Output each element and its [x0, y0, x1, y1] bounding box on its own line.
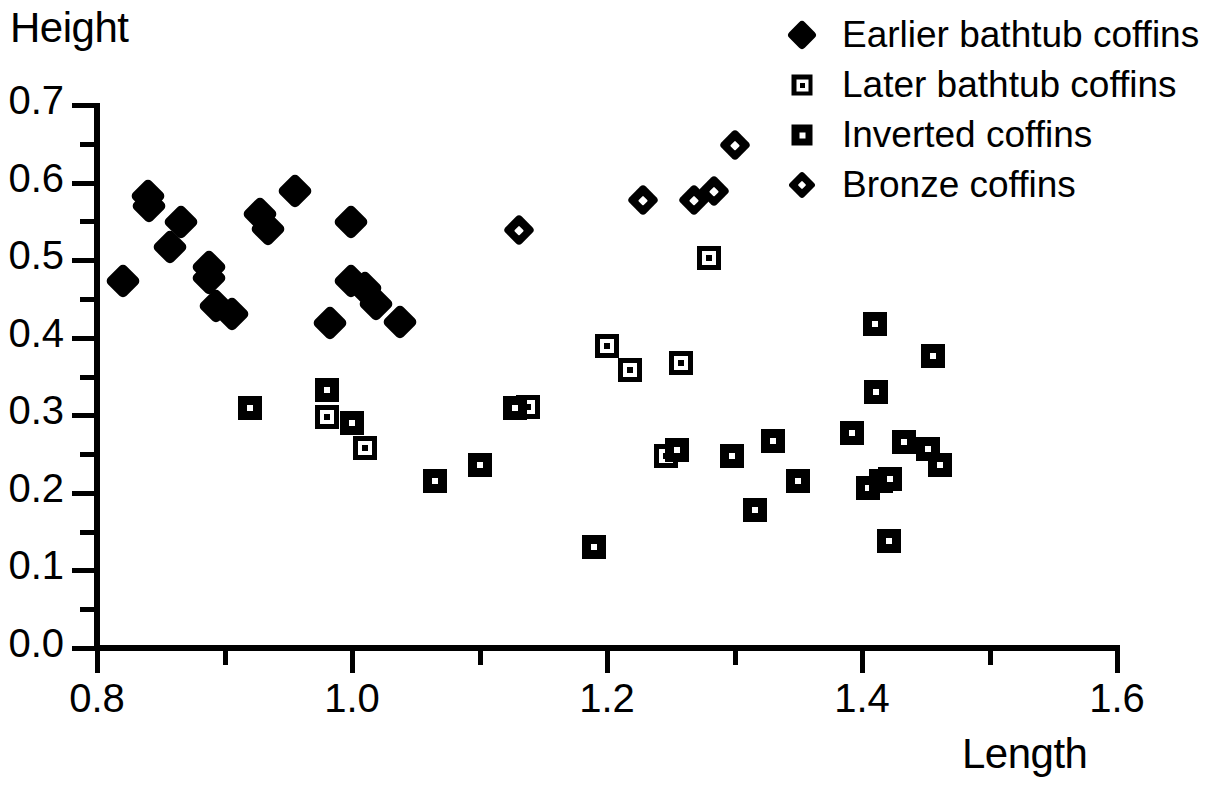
x-tick-minor [223, 650, 228, 665]
y-tick-major [72, 258, 95, 263]
legend-item-dotted-diamond[interactable]: Bronze coffins [780, 160, 1220, 210]
legend-item-label: Earlier bathtub coffins [842, 10, 1199, 60]
y-tick-major [72, 336, 95, 341]
marker-later-bathtub [618, 358, 642, 382]
marker-earlier-bathtub-icon [780, 10, 824, 60]
marker-later-bathtub [353, 436, 377, 460]
x-tick-label: 1.4 [802, 676, 922, 721]
y-tick-major [72, 568, 95, 573]
x-tick-label: 1.2 [547, 676, 667, 721]
y-tick-minor [80, 607, 95, 612]
marker-inverted [840, 421, 864, 445]
x-tick-label: 1.6 [1057, 676, 1177, 721]
marker-bronze-icon [780, 160, 824, 210]
marker-earlier-bathtub [312, 305, 349, 342]
legend-item-open-square[interactable]: Later bathtub coffins [780, 60, 1220, 110]
marker-inverted [761, 429, 785, 453]
marker-inverted [423, 469, 447, 493]
marker-earlier-bathtub [276, 173, 313, 210]
x-tick-major [1115, 650, 1120, 673]
y-tick-label: 0.5 [0, 233, 64, 278]
y-tick-label: 0.0 [0, 621, 64, 666]
marker-inverted [468, 453, 492, 477]
marker-inverted [743, 498, 767, 522]
marker-inverted [503, 396, 527, 420]
marker-later-bathtub-icon [780, 60, 824, 110]
marker-earlier-bathtub [332, 204, 369, 241]
x-tick-major [605, 650, 610, 673]
marker-bronze [718, 129, 751, 162]
marker-inverted-glyph [792, 125, 813, 146]
legend-item-label: Later bathtub coffins [842, 60, 1177, 110]
y-tick-minor [80, 142, 95, 147]
marker-inverted [878, 467, 902, 491]
marker-later-bathtub [315, 405, 339, 429]
x-tick-label: 1.0 [292, 676, 412, 721]
marker-later-bathtub-glyph [792, 75, 813, 96]
x-tick-major [95, 650, 100, 673]
x-tick-minor [478, 650, 483, 665]
y-tick-minor [80, 297, 95, 302]
y-tick-major [72, 413, 95, 418]
marker-earlier-bathtub-glyph [786, 19, 817, 50]
y-tick-minor [80, 530, 95, 535]
legend-item-filled-square[interactable]: Inverted coffins [780, 110, 1220, 160]
y-tick-label: 0.3 [0, 388, 64, 433]
marker-inverted [720, 444, 744, 468]
y-tick-major [72, 181, 95, 186]
y-tick-major [72, 491, 95, 496]
scatter-plot-figure: Height Length 0.00.10.20.30.40.50.60.70.… [0, 0, 1220, 786]
x-tick-major [860, 650, 865, 673]
marker-bronze [503, 214, 536, 247]
legend: Earlier bathtub coffinsLater bathtub cof… [780, 10, 1220, 210]
marker-bronze [626, 183, 659, 216]
marker-inverted [928, 453, 952, 477]
marker-inverted [864, 380, 888, 404]
marker-inverted [892, 430, 916, 454]
y-tick-label: 0.6 [0, 156, 64, 201]
x-axis-title: Length [962, 730, 1087, 778]
marker-earlier-bathtub [104, 263, 141, 300]
y-tick-minor [80, 375, 95, 380]
x-tick-minor [988, 650, 993, 665]
y-tick-major [72, 646, 95, 651]
marker-inverted [863, 312, 887, 336]
y-tick-label: 0.4 [0, 311, 64, 356]
marker-later-bathtub [697, 246, 721, 270]
marker-inverted [340, 411, 364, 435]
marker-inverted [877, 529, 901, 553]
legend-item-filled-diamond[interactable]: Earlier bathtub coffins [780, 10, 1220, 60]
y-tick-minor [80, 219, 95, 224]
y-tick-label: 0.1 [0, 543, 64, 588]
marker-inverted [665, 438, 689, 462]
marker-bronze-glyph [788, 171, 816, 199]
y-axis-title: Height [10, 4, 128, 52]
x-tick-label: 0.8 [37, 676, 157, 721]
y-tick-major [72, 103, 95, 108]
y-tick-label: 0.7 [0, 78, 64, 123]
legend-item-label: Bronze coffins [842, 160, 1076, 210]
marker-inverted [582, 535, 606, 559]
y-tick-label: 0.2 [0, 466, 64, 511]
marker-later-bathtub [595, 334, 619, 358]
marker-later-bathtub [669, 351, 693, 375]
marker-inverted [315, 378, 339, 402]
marker-inverted-icon [780, 110, 824, 160]
x-tick-major [350, 650, 355, 673]
marker-inverted [786, 469, 810, 493]
marker-inverted [238, 396, 262, 420]
legend-item-label: Inverted coffins [842, 110, 1092, 160]
marker-inverted [921, 344, 945, 368]
x-tick-minor [733, 650, 738, 665]
y-tick-minor [80, 452, 95, 457]
